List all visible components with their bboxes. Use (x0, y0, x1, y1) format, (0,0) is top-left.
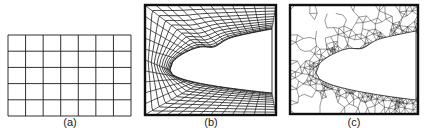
panel-c-triangular-mesh (290, 5, 418, 114)
panel-c-label: (c) (339, 116, 369, 128)
panel-a-structured-grid (8, 35, 131, 116)
panel-b-curvilinear-mesh (145, 5, 276, 115)
panel-b-label: (b) (196, 116, 226, 128)
mesh-figure (0, 0, 425, 134)
panel-a-label: (a) (55, 116, 85, 128)
